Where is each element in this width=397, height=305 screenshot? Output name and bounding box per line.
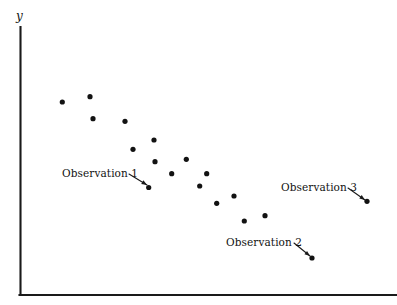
data-point: [262, 213, 267, 218]
scatter-plot-figure: y Observation 1Observation 2Observation …: [0, 0, 397, 305]
data-point: [184, 157, 189, 162]
data-point: [197, 183, 202, 188]
data-point: [130, 147, 135, 152]
data-point: [151, 137, 156, 142]
y-axis-label: y: [16, 10, 23, 22]
axes-group: [20, 27, 397, 295]
annotation-label-observation-1: Observation 1: [62, 168, 138, 179]
data-point: [87, 94, 92, 99]
data-point: [146, 185, 151, 190]
annotation-label-observation-3: Observation 3: [281, 182, 357, 193]
data-point: [169, 171, 174, 176]
data-point: [242, 218, 247, 223]
data-point: [152, 159, 157, 164]
data-point: [90, 116, 95, 121]
data-point: [214, 201, 219, 206]
data-point: [204, 171, 209, 176]
annotation-label-observation-2: Observation 2: [226, 237, 302, 248]
plot-canvas: [0, 0, 397, 305]
data-point: [231, 193, 236, 198]
data-point: [122, 119, 127, 124]
annotation-arrowhead: [359, 195, 365, 200]
data-point: [60, 99, 65, 104]
annotation-arrowhead: [141, 180, 147, 185]
